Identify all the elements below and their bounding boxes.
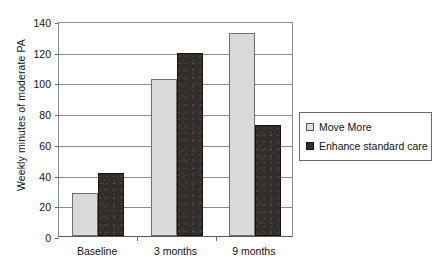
bar-chart-figure: Weekly minutes of moderate PA 0204060801… bbox=[0, 0, 438, 268]
bar-enhance-standard-care-9-months bbox=[255, 125, 281, 236]
x-axis-label-baseline: Baseline bbox=[77, 245, 117, 257]
legend-label: Enhance standard care bbox=[319, 140, 428, 152]
bar-move-more-baseline bbox=[72, 193, 98, 236]
y-axis-tick-label: 140 bbox=[33, 17, 51, 29]
y-axis-tick-label: 80 bbox=[39, 109, 51, 121]
bar-enhance-standard-care-3-months bbox=[177, 53, 203, 236]
x-axis-label-9-months: 9 months bbox=[232, 245, 275, 257]
bar-move-more-9-months bbox=[229, 33, 255, 236]
legend-swatch-icon bbox=[306, 123, 314, 131]
bar-series-container bbox=[59, 23, 292, 236]
bar-move-more-3-months bbox=[151, 79, 177, 236]
y-axis-tick-label: 20 bbox=[39, 201, 51, 213]
x-axis-label-3-months: 3 months bbox=[154, 245, 197, 257]
chart-legend: Move MoreEnhance standard care bbox=[299, 112, 432, 161]
bar-enhance-standard-care-baseline bbox=[98, 173, 124, 236]
x-axis-tick bbox=[216, 236, 217, 241]
y-axis-title: Weekly minutes of moderate PA bbox=[15, 15, 27, 215]
plot-area: 020406080100120140 bbox=[58, 22, 293, 237]
y-axis-tick bbox=[55, 238, 59, 239]
legend-label: Move More bbox=[319, 121, 372, 133]
y-axis-tick-label: 0 bbox=[45, 232, 51, 244]
y-axis-tick-label: 40 bbox=[39, 171, 51, 183]
legend-swatch-icon bbox=[306, 142, 314, 150]
x-axis-tick bbox=[137, 236, 138, 241]
legend-item-enhance-standard-care[interactable]: Enhance standard care bbox=[306, 138, 426, 154]
y-axis-tick-label: 120 bbox=[33, 48, 51, 60]
y-axis-tick-label: 60 bbox=[39, 140, 51, 152]
y-axis-tick-label: 100 bbox=[33, 78, 51, 90]
legend-item-move-more[interactable]: Move More bbox=[306, 119, 426, 135]
